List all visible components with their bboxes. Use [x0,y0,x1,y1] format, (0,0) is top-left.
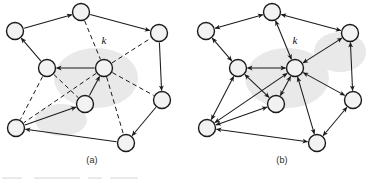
graph-edge [323,107,347,135]
graph-node[interactable] [77,96,94,113]
graph-node[interactable] [230,60,247,77]
graph-node-hub-k[interactable] [287,60,304,77]
graph-node[interactable] [268,96,285,113]
panel-caption-b: (b) [262,155,302,165]
graph-edge [90,14,150,30]
graph-edge [24,15,72,29]
graph-node[interactable] [7,23,24,40]
graph-edge [212,38,232,61]
graph-node[interactable] [118,135,135,152]
hub-node-label-k: k [102,34,108,46]
graph-diagram-canvas: kk [0,0,382,182]
graph-node[interactable] [198,23,215,40]
graph-edge [211,76,233,119]
graph-node[interactable] [8,120,25,137]
graph-node[interactable] [154,92,171,109]
graph-node[interactable] [73,4,90,21]
graph-node[interactable] [264,4,281,21]
panel-caption-a: (a) [72,155,112,165]
graph-edge [281,14,341,30]
graph-node-hub-k[interactable] [96,60,113,77]
graph-edge [216,129,307,141]
figure-container: kk (a) (b) [0,0,382,182]
graph-edge [216,107,267,125]
graph-node[interactable] [342,25,359,42]
graph-edge [132,107,156,135]
scan-watermark [35,32,366,136]
graph-node[interactable] [345,92,362,109]
graph-node[interactable] [199,120,216,137]
graph-edge [159,42,161,90]
graph-node[interactable] [309,135,326,152]
graph-node[interactable] [151,25,168,42]
graph-edge [215,15,263,29]
hub-node-label-k: k [293,34,299,46]
graph-edge [21,38,41,61]
graph-node[interactable] [39,60,56,77]
